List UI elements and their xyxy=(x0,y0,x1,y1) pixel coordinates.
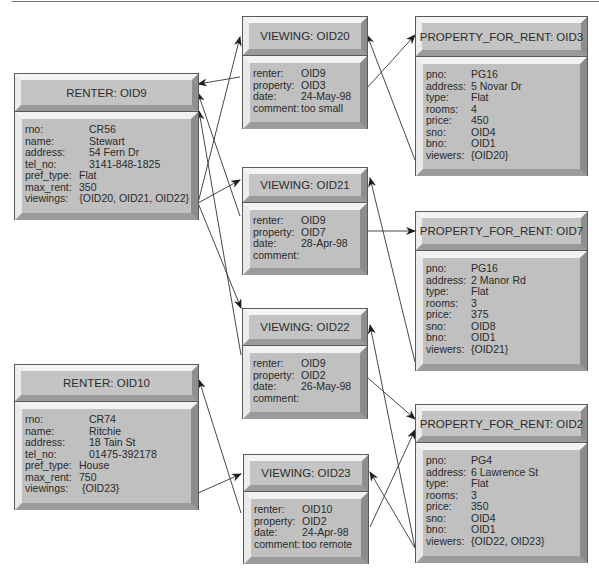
object-title: VIEWING: OID22 xyxy=(243,309,367,345)
attr-key: type: xyxy=(426,286,471,298)
object-diagram: RENTER: OID9 rno:CR56 name:Stewart addre… xyxy=(0,0,599,575)
attr-key: price: xyxy=(426,115,471,127)
attr-value: OID10 xyxy=(302,504,332,516)
attr-key: rno: xyxy=(25,124,89,136)
attr-value: {OID23} xyxy=(82,483,119,495)
property-object-oid2[interactable]: PROPERTY_FOR_RENT: OID2 pno:PG4 address:… xyxy=(415,404,588,563)
attr-value: Flat xyxy=(471,92,489,104)
attr-key: viewers: xyxy=(426,150,471,162)
attr-value: 54 Fern Dr xyxy=(89,147,139,159)
attr-key: renter: xyxy=(254,504,302,516)
viewing-object-oid22[interactable]: VIEWING: OID22 renter:OID9 property:OID2… xyxy=(242,308,368,419)
attr-key: comment: xyxy=(253,393,301,405)
attr-key: pno: xyxy=(426,69,471,81)
attribute-row: viewers:{OID21} xyxy=(426,344,578,356)
attr-value: CR74 xyxy=(89,414,116,426)
attr-key: viewers: xyxy=(426,344,471,356)
attr-value: Flat xyxy=(471,478,489,490)
link-viewing20-to-renter9 xyxy=(198,77,240,84)
attribute-row: bno:OID1 xyxy=(426,332,578,344)
attr-value: 450 xyxy=(471,115,489,127)
attribute-list: renter:OID9 property:OID2 date:26-May-98… xyxy=(243,346,367,419)
object-title: VIEWING: OID20 xyxy=(243,17,367,55)
attribute-row: rno:CR56 xyxy=(25,124,189,136)
link-renter9-to-viewing20 xyxy=(198,37,240,203)
attr-key: comment: xyxy=(254,539,302,551)
attr-value: {OID21} xyxy=(471,344,508,356)
attribute-row: renter:OID10 xyxy=(254,504,359,516)
viewing-object-oid23[interactable]: VIEWING: OID23 renter:OID10 property:OID… xyxy=(243,454,369,564)
attr-key: date: xyxy=(254,527,302,539)
object-title: VIEWING: OID21 xyxy=(243,168,367,202)
attribute-row: date:24-Apr-98 xyxy=(254,527,359,539)
attr-key: price: xyxy=(426,501,471,513)
attribute-row: address:5 Novar Dr xyxy=(426,81,578,93)
attribute-row: bno:OID1 xyxy=(426,524,578,536)
attr-key: bno: xyxy=(426,138,471,150)
attr-value: CR56 xyxy=(89,124,116,136)
attr-key: pno: xyxy=(426,263,471,275)
attribute-row: sno:OID4 xyxy=(426,127,578,139)
attr-key: type: xyxy=(426,478,471,490)
attribute-list: renter:OID9 property:OID7 date:28-Apr-98… xyxy=(243,203,367,275)
attribute-row: price:375 xyxy=(426,309,578,321)
attr-key: price: xyxy=(426,309,471,321)
attribute-row: address:18 Tain St xyxy=(25,437,189,449)
link-property7-to-viewing21 xyxy=(370,178,415,362)
link-viewing22-to-renter9 xyxy=(199,111,241,355)
attr-key: type: xyxy=(426,92,471,104)
link-viewing20-to-property3 xyxy=(367,35,415,88)
attribute-row: address:54 Fern Dr xyxy=(25,147,189,159)
renter-object-oid9[interactable]: RENTER: OID9 rno:CR56 name:Stewart addre… xyxy=(14,73,199,220)
link-viewing23-to-renter10 xyxy=(199,380,241,513)
attribute-row: type:Flat xyxy=(426,478,578,490)
attribute-row: renter:OID9 xyxy=(253,215,358,227)
object-title: RENTER: OID10 xyxy=(15,365,198,401)
attribute-row: bno:OID1 xyxy=(426,138,578,150)
attr-value: too remote xyxy=(302,539,352,551)
attribute-row: date:24-May-98 xyxy=(253,91,358,103)
attribute-list: renter:OID9 property:OID3 date:24-May-98… xyxy=(243,56,367,129)
attr-key: rno: xyxy=(25,414,89,426)
link-renter9-to-viewing21 xyxy=(198,180,240,203)
attribute-row: sno:OID4 xyxy=(426,513,578,525)
attribute-row: pref_type:Flat xyxy=(25,170,189,182)
attr-value: Flat xyxy=(79,170,97,182)
attribute-row: sno:OID8 xyxy=(426,321,578,333)
viewing-object-oid21[interactable]: VIEWING: OID21 renter:OID9 property:OID7… xyxy=(242,167,368,275)
attr-value: too small xyxy=(301,103,343,115)
attribute-row: date:28-Apr-98 xyxy=(253,238,358,250)
viewing-object-oid20[interactable]: VIEWING: OID20 renter:OID9 property:OID3… xyxy=(242,16,368,129)
attr-key: pref_type: xyxy=(25,170,79,182)
attr-key: address: xyxy=(25,437,89,449)
link-property3-to-viewing20 xyxy=(367,35,415,160)
attribute-row: viewers:{OID22, OID23} xyxy=(426,536,578,548)
attribute-list: pno:PG4 address:6 Lawrence St type:Flat … xyxy=(416,443,587,563)
attr-value: OID9 xyxy=(301,358,326,370)
attribute-row: comment: xyxy=(253,250,358,262)
attribute-row: price:350 xyxy=(426,501,578,513)
attribute-row: pno:PG16 xyxy=(426,69,578,81)
attr-value: 26-May-98 xyxy=(301,381,351,393)
attribute-list: pno:PG16 address:2 Manor Rd type:Flat ro… xyxy=(416,251,587,371)
attr-value: OID9 xyxy=(301,215,326,227)
attr-key: comment: xyxy=(253,103,301,115)
property-object-oid7[interactable]: PROPERTY_FOR_RENT: OID7 pno:PG16 address… xyxy=(415,211,588,371)
object-title: VIEWING: OID23 xyxy=(244,455,368,491)
attr-key: date: xyxy=(253,91,301,103)
attr-key: viewers: xyxy=(426,536,471,548)
attribute-row: date:26-May-98 xyxy=(253,381,358,393)
attr-key: viewings: xyxy=(25,193,79,205)
attribute-row: rno:CR74 xyxy=(25,414,189,426)
attr-key: renter: xyxy=(253,68,301,80)
renter-object-oid10[interactable]: RENTER: OID10 rno:CR74 name:Ritchie addr… xyxy=(14,364,199,510)
property-object-oid3[interactable]: PROPERTY_FOR_RENT: OID3 pno:PG16 address… xyxy=(415,16,588,176)
attr-value: House xyxy=(79,460,109,472)
attribute-row: renter:OID9 xyxy=(253,68,358,80)
attr-value: {OID20, OID21, OID22} xyxy=(79,193,189,205)
attribute-row: comment:too small xyxy=(253,103,358,115)
attr-key: pref_type: xyxy=(25,460,79,472)
attribute-row: price:450 xyxy=(426,115,578,127)
object-title: PROPERTY_FOR_RENT: OID2 xyxy=(416,405,587,442)
attr-value: OID1 xyxy=(471,138,496,150)
